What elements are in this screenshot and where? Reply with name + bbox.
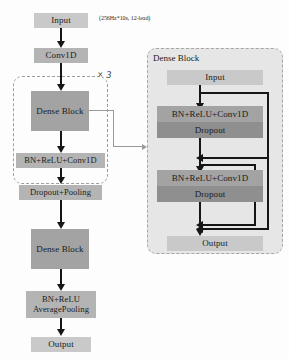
dense-block-detail-connector-segment-2	[113, 110, 114, 146]
arrow-dropoutpool-to-denseblock2-head	[57, 222, 65, 229]
db-output-box: Output	[167, 236, 263, 251]
figure-canvas: Dense Block Input BN+ReLU+Conv1D Dropout…	[0, 0, 289, 359]
bn-relu-averagepooling-box: BN+ReLU AveragePooling	[26, 291, 96, 318]
arrow-avgpool-to-output-head	[57, 329, 65, 336]
db-skip-long-bottom-segment	[201, 228, 269, 230]
db-arrow-layer2-to-output-head	[196, 229, 204, 236]
dense-block-detail-connector-arrow	[142, 144, 147, 150]
dropout-pooling-box: Dropout+Pooling	[19, 185, 102, 200]
bn-relu-conv1d-box: BN+ReLU+Conv1D	[16, 153, 105, 168]
repeat-count-label: × 3	[97, 70, 111, 80]
db-skip-long-right-segment	[267, 157, 269, 230]
dense-block-panel-title: Dense Block	[153, 53, 199, 63]
dense-block-detail-connector-segment-3	[113, 146, 143, 147]
db-layer2-box: BN+ReLU+Conv1D	[157, 170, 263, 186]
db-skip1-bottom-segment	[201, 157, 269, 159]
output-box: Output	[31, 337, 91, 352]
dense-block-detail-connector-segment-1	[89, 110, 113, 111]
db-skip2-top-segment	[199, 164, 256, 166]
dense-block-1-box: Dense Block	[31, 91, 89, 131]
conv1d-box: Conv1D	[34, 48, 88, 63]
input-spec-note: (256Hz*10s, 12-lead)	[99, 15, 150, 21]
db-dropout1-box: Dropout	[157, 122, 263, 138]
db-dropout2-box: Dropout	[157, 186, 263, 202]
arrow-denseblock1-to-bnreluconv-head	[57, 146, 65, 153]
arrow-input-to-conv1d-head	[57, 41, 65, 48]
db-layer1-box: BN+ReLU+Conv1D	[157, 106, 263, 122]
cut-off-caption-sliver	[4, 353, 285, 359]
db-skip2-bottom-segment	[201, 224, 256, 226]
arrow-bnreluconv-to-dropoutpool-head	[57, 177, 65, 184]
db-skip1-top-segment	[199, 92, 269, 94]
dense-block-2-box: Dense Block	[31, 229, 89, 269]
db-input-box: Input	[167, 70, 263, 85]
input-box: Input	[34, 13, 88, 28]
arrow-conv1d-to-denseblock-head	[57, 84, 65, 91]
arrow-denseblock2-to-avgpool-head	[57, 284, 65, 291]
db-skip1-right-segment	[267, 92, 269, 159]
